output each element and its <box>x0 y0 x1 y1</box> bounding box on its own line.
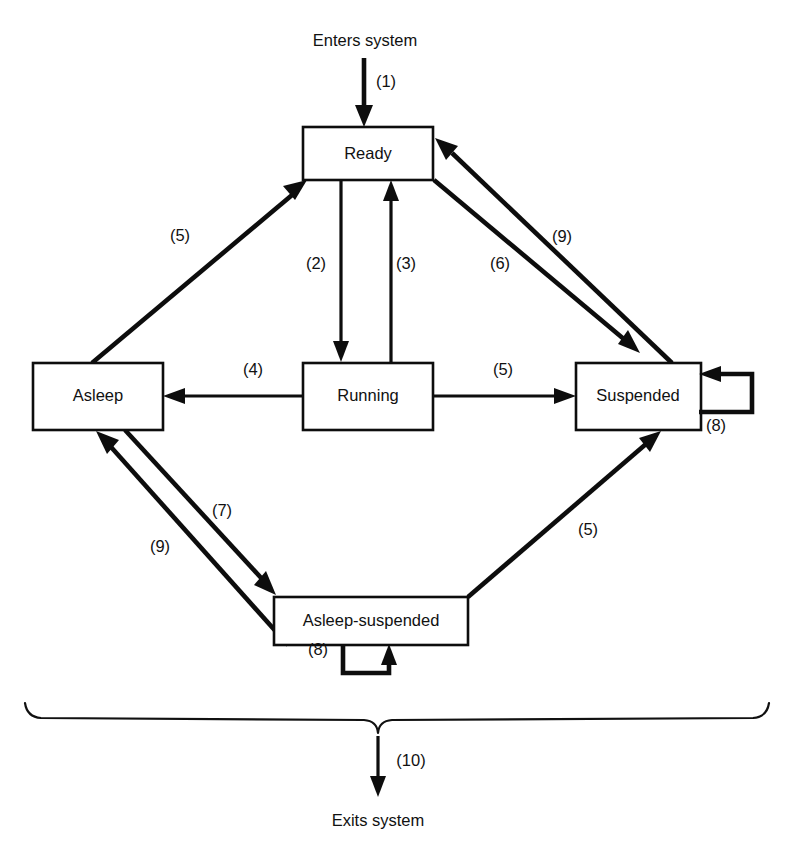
state-asleep-suspended-label: Asleep-suspended <box>303 611 440 629</box>
diagram-canvas: Enters system (1) (2) (3) (4) <box>0 0 789 853</box>
transition-9b-group: (9) <box>96 431 288 645</box>
system-brace <box>25 703 769 733</box>
transition-7b-label: (7) <box>212 501 232 519</box>
transition-3-group: (3) <box>383 180 416 362</box>
transition-4-label: (4) <box>243 360 263 378</box>
transition-5a-group: (5) <box>92 180 307 363</box>
transition-6-label: (5) <box>493 360 513 378</box>
transition-9b-line <box>111 447 288 645</box>
state-asleep[interactable]: Asleep <box>33 363 163 430</box>
transition-2-arrowhead <box>333 341 349 362</box>
system-brace-group <box>25 703 769 733</box>
transition-1-arrowhead <box>355 105 373 127</box>
transition-10-label: (10) <box>396 751 425 769</box>
transition-3-arrowhead <box>383 180 399 201</box>
state-suspended[interactable]: Suspended <box>576 363 701 430</box>
transition-8b-label: (8) <box>308 640 328 658</box>
transition-7a-label: (6) <box>490 254 510 272</box>
transition-5a-line <box>92 190 298 363</box>
transition-8a-group: (8) <box>699 366 752 434</box>
exit-group: (10) Exits system <box>332 736 426 829</box>
transition-8b-loop <box>343 646 389 673</box>
transition-5b-line <box>468 444 646 597</box>
transition-8a-loop <box>699 374 752 412</box>
entry-group: Enters system (1) <box>313 31 418 127</box>
transition-4-group: (4) <box>163 360 303 404</box>
transition-7a-arrowhead <box>618 330 640 353</box>
transition-1-label: (1) <box>376 72 396 90</box>
transition-10-arrowhead <box>370 776 386 797</box>
transition-6-arrowhead <box>554 388 576 404</box>
transition-9a-label: (9) <box>552 227 572 245</box>
transition-9a-group: (9) <box>435 138 672 363</box>
transition-2-label: (2) <box>306 254 326 272</box>
transition-2-group: (2) <box>306 180 349 362</box>
transition-3-label: (3) <box>396 254 416 272</box>
state-ready-label: Ready <box>344 144 392 162</box>
exits-system-label: Exits system <box>332 811 425 829</box>
transition-9a-line <box>452 153 672 363</box>
transition-7a-line <box>434 180 625 340</box>
state-running[interactable]: Running <box>303 363 433 430</box>
transition-8a-label: (8) <box>706 416 726 434</box>
transition-9b-label: (9) <box>150 537 170 555</box>
state-asleep-suspended[interactable]: Asleep-suspended <box>274 597 468 645</box>
transition-5b-label: (5) <box>578 520 598 538</box>
state-transition-diagram: Enters system (1) (2) (3) (4) <box>0 0 789 853</box>
transition-7b-line <box>125 430 263 580</box>
state-suspended-label: Suspended <box>596 386 680 404</box>
transition-4-arrowhead <box>163 388 185 404</box>
transition-6-group: (5) <box>433 360 576 404</box>
transition-5b-group: (5) <box>468 431 661 597</box>
state-asleep-label: Asleep <box>73 386 123 404</box>
transition-7a-group: (6) <box>434 180 640 353</box>
state-running-label: Running <box>337 386 398 404</box>
transition-5a-label: (5) <box>170 226 190 244</box>
enters-system-label: Enters system <box>313 31 418 49</box>
transition-7b-group: (7) <box>125 430 276 595</box>
state-ready[interactable]: Ready <box>303 127 433 180</box>
transition-8b-arrowhead <box>381 644 397 665</box>
